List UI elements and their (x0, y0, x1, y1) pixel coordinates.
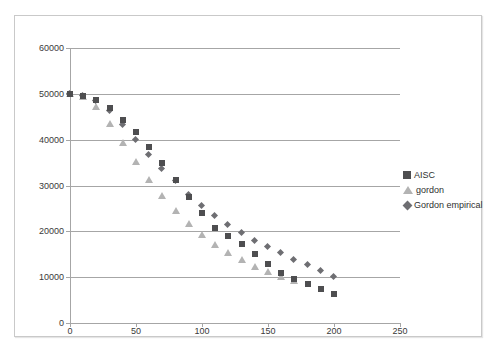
plot-area (70, 48, 400, 323)
data-point (251, 263, 259, 270)
y-tick-label-0: 0 (59, 318, 64, 328)
y-tickmark-30000 (66, 186, 70, 187)
data-point (290, 256, 297, 263)
legend-label: gordon (416, 185, 444, 195)
legend-label: Gordon empirical (414, 200, 483, 210)
x-tickmark-250 (400, 323, 401, 327)
x-tick-label-50: 50 (131, 326, 141, 336)
data-point (211, 212, 218, 219)
y-tick-label-30000: 30000 (39, 181, 64, 191)
data-point (305, 281, 311, 287)
data-point (172, 207, 180, 214)
data-point (80, 93, 86, 99)
y-tick-label-40000: 40000 (39, 135, 64, 145)
data-point (318, 286, 324, 292)
data-point (277, 249, 284, 256)
chart-screenshot: 0100002000030000400005000060000 05010015… (0, 0, 495, 352)
gridline-y-30000 (70, 186, 400, 187)
data-point (198, 231, 206, 238)
data-point (119, 139, 127, 146)
data-point (92, 103, 100, 110)
data-point (133, 129, 139, 135)
data-point (158, 165, 165, 172)
x-tick-label-100: 100 (194, 326, 209, 336)
data-point (145, 151, 152, 158)
x-tick-label-250: 250 (392, 326, 407, 336)
x-tickmark-0 (70, 323, 71, 327)
data-point (331, 291, 337, 297)
data-point (264, 243, 271, 250)
data-point (224, 221, 231, 228)
diamond-marker-icon (403, 200, 413, 210)
data-point (278, 270, 284, 276)
gridline-y-60000 (70, 48, 400, 49)
legend-item-gordon-empirical[interactable]: Gordon empirical (403, 198, 495, 212)
y-tick-label-20000: 20000 (39, 226, 64, 236)
data-point (120, 117, 126, 123)
data-point (145, 176, 153, 183)
data-point (173, 177, 179, 183)
data-point (185, 220, 193, 227)
y-axis-labels: 0100002000030000400005000060000 (15, 48, 64, 323)
data-point (186, 194, 192, 200)
x-tick-label-150: 150 (260, 326, 275, 336)
data-point (317, 267, 324, 274)
legend-item-aisc[interactable]: AISC (403, 168, 495, 182)
data-point (146, 144, 152, 150)
chart-frame: 0100002000030000400005000060000 05010015… (14, 15, 482, 337)
y-tickmark-60000 (66, 48, 70, 49)
data-point (132, 136, 139, 143)
x-tickmark-200 (334, 323, 335, 327)
data-point (132, 158, 140, 165)
x-tickmark-150 (268, 323, 269, 327)
data-point (67, 91, 73, 97)
chart-legend: AISCgordonGordon empirical (403, 168, 495, 213)
data-point (93, 97, 99, 103)
data-point (251, 236, 258, 243)
data-point (158, 192, 166, 199)
data-point (198, 202, 205, 209)
legend-item-gordon[interactable]: gordon (403, 183, 495, 197)
data-point (291, 276, 297, 282)
data-point (211, 241, 219, 248)
gridline-y-0 (70, 323, 400, 324)
data-point (238, 256, 246, 263)
data-point (199, 210, 205, 216)
data-point (225, 233, 231, 239)
y-tick-label-10000: 10000 (39, 272, 64, 282)
legend-label: AISC (414, 170, 435, 180)
x-tickmark-50 (136, 323, 137, 327)
gridline-y-20000 (70, 231, 400, 232)
data-point (212, 225, 218, 231)
y-tick-label-50000: 50000 (39, 89, 64, 99)
square-marker-icon (403, 171, 411, 179)
data-point (224, 249, 232, 256)
data-point (107, 105, 113, 111)
gridline-y-50000 (70, 94, 400, 95)
x-tickmark-100 (202, 323, 203, 327)
y-tickmark-40000 (66, 140, 70, 141)
data-point (330, 273, 337, 280)
data-point (239, 241, 245, 247)
data-point (159, 160, 165, 166)
data-point (264, 268, 272, 275)
gridline-y-10000 (70, 277, 400, 278)
data-point (252, 251, 258, 257)
triangle-marker-icon (403, 186, 413, 194)
x-tick-label-0: 0 (67, 326, 72, 336)
data-point (238, 229, 245, 236)
y-tickmark-20000 (66, 231, 70, 232)
x-tick-label-200: 200 (326, 326, 341, 336)
data-point (304, 261, 311, 268)
x-axis-labels: 050100150200250 (70, 326, 410, 342)
data-point (265, 261, 271, 267)
data-point (106, 120, 114, 127)
y-tick-label-60000: 60000 (39, 43, 64, 53)
y-tickmark-10000 (66, 277, 70, 278)
